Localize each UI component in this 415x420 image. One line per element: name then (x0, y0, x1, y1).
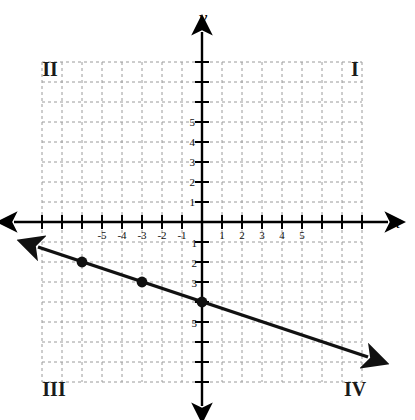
y-tick-label-neg5: 5 (192, 317, 198, 329)
x-tick-label-neg3: -3 (137, 229, 147, 241)
x-tick-label-3: 3 (259, 229, 265, 241)
y-tick-label-3: 3 (190, 156, 196, 168)
data-point (77, 257, 88, 268)
y-tick-label-5: 5 (190, 116, 196, 128)
y-axis-label: y (197, 7, 208, 28)
data-point (137, 277, 148, 288)
quadrant-label-4: IV (344, 378, 367, 400)
y-tick-label-2: 2 (190, 176, 196, 188)
y-tick-label-1: 1 (190, 196, 196, 208)
x-axis-label: x (391, 211, 401, 232)
quadrant-label-2: II (42, 58, 58, 80)
x-tick-label-1: 1 (219, 229, 225, 241)
y-tick-label-neg1: 1 (192, 237, 198, 249)
graph-canvas: -5 -4 -3 -2 -1 1 2 3 4 5 1 2 3 4 5 1 2 3… (0, 0, 415, 420)
y-tick-label-neg3: 3 (192, 277, 198, 289)
data-point (197, 297, 208, 308)
x-tick-label-2: 2 (239, 229, 245, 241)
y-tick-label-neg2: 2 (192, 257, 198, 269)
y-tick-label-4: 4 (190, 136, 196, 148)
x-tick-label-5: 5 (299, 229, 305, 241)
coordinate-plane-figure: -5 -4 -3 -2 -1 1 2 3 4 5 1 2 3 4 5 1 2 3… (0, 0, 415, 420)
x-tick-label-neg5: -5 (97, 229, 107, 241)
x-tick-label-neg2: -2 (157, 229, 166, 241)
x-tick-label-neg4: -4 (117, 229, 127, 241)
x-tick-label-4: 4 (279, 229, 285, 241)
quadrant-label-1: I (351, 58, 359, 80)
quadrant-label-3: III (42, 378, 66, 400)
x-tick-label-neg1: -1 (177, 229, 186, 241)
